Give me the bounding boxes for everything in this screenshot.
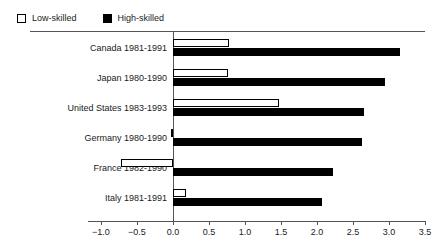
x-tick <box>209 221 210 225</box>
chart-container: Low-skilled High-skilled Canada 1981-199… <box>0 0 439 251</box>
bar-low-skilled <box>173 189 186 197</box>
category-label: United States 1983-1993 <box>67 103 167 113</box>
x-tick-label: 3.5 <box>405 227 439 237</box>
legend-entry-low-skilled: Low-skilled <box>17 14 77 23</box>
bar-high-skilled <box>173 78 385 86</box>
x-axis-line <box>88 221 425 222</box>
chart-legend: Low-skilled High-skilled <box>17 11 190 25</box>
legend-entry-high-skilled: High-skilled <box>103 14 165 23</box>
x-tick-label: 1.5 <box>261 227 301 237</box>
category-label: Italy 1981-1991 <box>105 193 167 203</box>
filled-square-icon <box>103 14 112 23</box>
category-label: Canada 1981-1991 <box>90 43 167 53</box>
bar-row: Germany 1980-1990 <box>0 126 439 156</box>
bar-high-skilled <box>173 48 400 56</box>
bar-row: United States 1983-1993 <box>0 96 439 126</box>
x-tick-label: 1.0 <box>225 227 265 237</box>
x-tick <box>425 221 426 225</box>
bar-low-skilled <box>173 69 228 77</box>
x-tick <box>173 221 174 225</box>
bar-high-skilled <box>173 138 362 146</box>
legend-label-high-skilled: High-skilled <box>118 14 165 23</box>
legend-label-low-skilled: Low-skilled <box>32 14 77 23</box>
bar-low-skilled <box>121 159 173 167</box>
bar-low-skilled <box>173 39 229 47</box>
bar-high-skilled <box>173 108 364 116</box>
hollow-square-icon <box>17 14 26 23</box>
bar-high-skilled <box>173 198 322 206</box>
bar-low-skilled <box>171 129 173 137</box>
x-tick <box>137 221 138 225</box>
x-tick-label: 3.0 <box>369 227 409 237</box>
bar-row: France 1982-1990 <box>0 156 439 186</box>
x-tick-label: 0.5 <box>189 227 229 237</box>
x-tick <box>101 221 102 225</box>
x-tick <box>281 221 282 225</box>
bar-high-skilled <box>173 168 333 176</box>
bar-row: Canada 1981-1991 <box>0 36 439 66</box>
x-tick <box>317 221 318 225</box>
x-tick <box>389 221 390 225</box>
bar-row: Japan 1980-1990 <box>0 66 439 96</box>
category-label: Germany 1980-1990 <box>84 133 167 143</box>
category-label: Japan 1980-1990 <box>97 73 167 83</box>
x-tick-label: −0.5 <box>117 227 157 237</box>
plot-top-rule <box>30 31 425 32</box>
bar-row: Italy 1981-1991 <box>0 186 439 216</box>
x-tick <box>353 221 354 225</box>
bar-low-skilled <box>173 99 279 107</box>
x-tick-label: −1.0 <box>81 227 121 237</box>
x-tick <box>245 221 246 225</box>
x-tick-label: 2.5 <box>333 227 373 237</box>
x-tick-label: 2.0 <box>297 227 337 237</box>
x-tick-label: 0.0 <box>153 227 193 237</box>
